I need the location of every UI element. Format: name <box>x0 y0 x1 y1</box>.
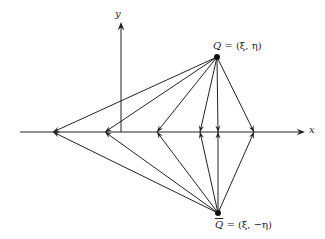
ray-from-q <box>217 57 218 132</box>
diagram-canvas <box>0 0 325 239</box>
q-coords: = (ξ, η) <box>224 40 261 51</box>
ray-from-q-bar <box>218 132 254 213</box>
x-axis-label: x <box>309 124 315 135</box>
ray-from-q-bar <box>53 132 218 213</box>
ray-from-q <box>53 57 217 132</box>
ray-arrow-icon <box>105 132 112 138</box>
q-bar-coords: = (ξ, −η) <box>226 219 272 230</box>
ray-arrow-icon <box>105 126 112 132</box>
q-bar-symbol: Q <box>215 219 223 230</box>
point-q-label: Q = (ξ, η) <box>213 40 262 51</box>
ray-from-q-bar <box>105 132 218 213</box>
point-q-bar-label: Q = (ξ, −η) <box>215 219 272 230</box>
point-q-dot <box>214 54 220 60</box>
ray-from-q <box>105 57 217 132</box>
q-symbol: Q <box>213 40 221 51</box>
point-q-bar-dot <box>215 210 221 216</box>
ray-arrow-icon <box>157 132 163 139</box>
y-axis-label: y <box>115 8 121 19</box>
ray-from-q <box>217 57 254 132</box>
